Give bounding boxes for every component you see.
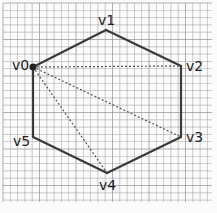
vertex-label-v2: v2 — [186, 58, 203, 74]
vertex-label-v3: v3 — [186, 129, 203, 145]
edge-v3-v4 — [107, 137, 181, 173]
vertex-dots — [30, 64, 37, 71]
vertex-label-v0: v0 — [12, 57, 29, 73]
diagonal-v0-v3 — [33, 67, 181, 137]
hexagon-diagram: v0v1v2v3v4v5 — [0, 0, 217, 213]
vertex-label-v4: v4 — [99, 177, 116, 193]
diagonal-v0-v2 — [33, 66, 181, 67]
diagram-svg: v0v1v2v3v4v5 — [0, 0, 217, 213]
vertex-label-v1: v1 — [98, 12, 115, 28]
edge-v1-v2 — [106, 30, 181, 66]
vertex-dot-v0 — [30, 64, 37, 71]
vertex-label-v5: v5 — [13, 133, 30, 149]
edge-v4-v5 — [33, 137, 107, 173]
